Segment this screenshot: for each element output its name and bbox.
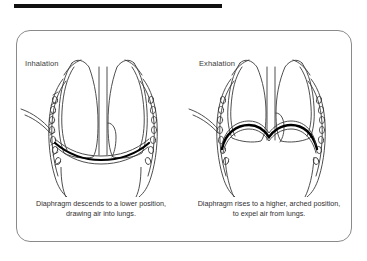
anatomy-diagram-inhalation — [17, 37, 185, 197]
panel-caption-exhalation: Diaphragm rises to a higher, arched posi… — [189, 199, 349, 218]
figure-root: Inhalation — [0, 0, 367, 261]
lung-right-lobe-inner — [62, 67, 74, 150]
lung-left-lobe-inner — [132, 67, 144, 150]
diaphragm-exhalation — [222, 125, 317, 149]
panel-inhalation: Inhalation — [17, 31, 185, 243]
leader-line — [21, 109, 50, 129]
caption-line-1: Diaphragm descends to a lower position, — [36, 199, 166, 208]
abdomen-outline — [225, 157, 314, 197]
abdomen-outline — [61, 167, 141, 197]
caption-line-2: to expel air from lungs. — [233, 209, 306, 218]
panel-caption-inhalation: Diaphragm descends to a lower position, … — [21, 199, 181, 218]
anatomy-diagram-exhalation — [185, 37, 353, 197]
top-horizontal-rule — [14, 4, 222, 8]
diaphragm-inhalation — [55, 143, 149, 160]
caption-line-1: Diaphragm rises to a higher, arched posi… — [198, 199, 341, 208]
caption-line-2: drawing air into lungs. — [66, 209, 136, 218]
leader-line — [189, 109, 218, 129]
panel-exhalation: Exhalation — [185, 31, 353, 243]
trachea-hilum-notch — [108, 123, 116, 157]
illustration-frame: Inhalation — [16, 30, 352, 242]
